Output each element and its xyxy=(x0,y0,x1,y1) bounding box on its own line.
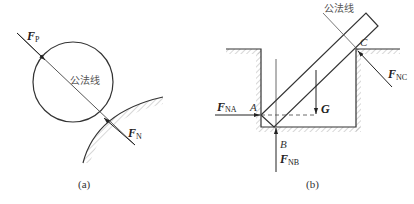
force-nc-arrow xyxy=(358,51,392,87)
force-n-label: FN xyxy=(127,126,142,141)
point-b-label: B xyxy=(280,138,287,150)
normal-line-label-b: 公法线 xyxy=(324,2,354,14)
force-na-label: FNA xyxy=(216,100,237,114)
gravity-label: G xyxy=(321,102,330,116)
point-c-label: C xyxy=(360,36,368,48)
left-top-hatch xyxy=(226,49,261,54)
force-nc-label: FNC xyxy=(387,67,407,82)
right-wall-hatch xyxy=(356,49,361,132)
force-p-label: FP xyxy=(26,29,40,44)
point-a-label: A xyxy=(249,101,257,113)
common-normal-line-b xyxy=(323,13,358,50)
caption-b: (b) xyxy=(306,178,319,191)
figure-a: FP FN 公法线 (a) xyxy=(17,29,163,191)
right-top-hatch xyxy=(356,49,400,54)
force-nb-label: FNB xyxy=(279,152,299,167)
diagram-canvas: FP FN 公法线 (a) 公法线 C xyxy=(0,0,414,204)
floor-hatch xyxy=(256,127,361,132)
normal-line-label-a: 公法线 xyxy=(70,74,100,86)
figure-b: 公法线 C FNC FNA A G B FNB (b) xyxy=(215,2,407,191)
caption-a: (a) xyxy=(78,178,91,191)
